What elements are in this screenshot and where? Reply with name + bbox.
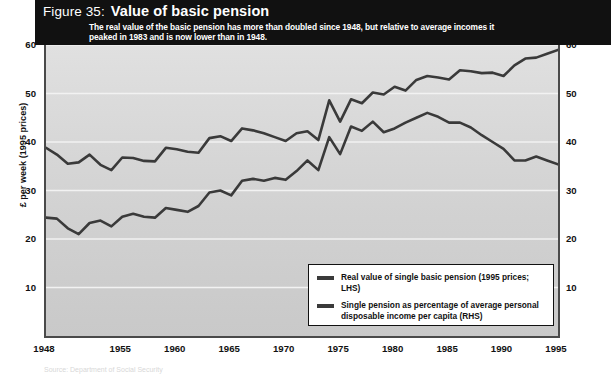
x-tick-1955: 1955 — [100, 343, 140, 354]
figure-title: Value of basic pension — [111, 3, 270, 19]
y-tick-right-40: 40 — [566, 136, 592, 147]
x-tick-1995: 1995 — [536, 343, 576, 354]
y-tick-right-50: 50 — [566, 88, 592, 99]
y-tick-right-10: 10 — [566, 282, 592, 293]
source-note: Source: Department of Social Security — [44, 366, 163, 373]
x-tick-1990: 1990 — [482, 343, 522, 354]
figure-number-label: Figure 35: — [43, 4, 105, 19]
legend-label: Single pension as percentage of average … — [341, 300, 547, 321]
series-line-1 — [46, 50, 558, 170]
figure-subtitle: The real value of the basic pension has … — [89, 22, 521, 43]
x-tick-1970: 1970 — [264, 343, 304, 354]
x-tick-1980: 1980 — [373, 343, 413, 354]
y-tick-left-40: 40 — [10, 136, 36, 147]
y-tick-right-20: 20 — [566, 233, 592, 244]
x-tick-1965: 1965 — [209, 343, 249, 354]
figure-title-line: Figure 35:Value of basic pension — [43, 2, 603, 20]
y-tick-left-60: 60 — [10, 39, 36, 50]
legend-item-real-value: Real value of single basic pension (1995… — [315, 272, 547, 293]
y-tick-right-30: 30 — [566, 185, 592, 196]
x-tick-1960: 1960 — [155, 343, 195, 354]
legend-swatch-icon — [317, 276, 334, 280]
figure-title-banner: Figure 35:Value of basic pension The rea… — [35, 0, 611, 45]
y-tick-right-60: 60 — [566, 39, 592, 50]
x-tick-1985: 1985 — [427, 343, 467, 354]
legend-swatch-icon — [317, 304, 334, 308]
x-tick-1975: 1975 — [318, 343, 358, 354]
x-tick-1948: 1948 — [24, 343, 64, 354]
y-tick-left-20: 20 — [10, 233, 36, 244]
y-tick-left-50: 50 — [10, 88, 36, 99]
legend-item-percentage: Single pension as percentage of average … — [315, 300, 547, 321]
y-tick-left-30: 30 — [10, 185, 36, 196]
chart-legend: Real value of single basic pension (1995… — [308, 264, 554, 326]
y-tick-left-10: 10 — [10, 282, 36, 293]
legend-label: Real value of single basic pension (1995… — [341, 272, 547, 293]
